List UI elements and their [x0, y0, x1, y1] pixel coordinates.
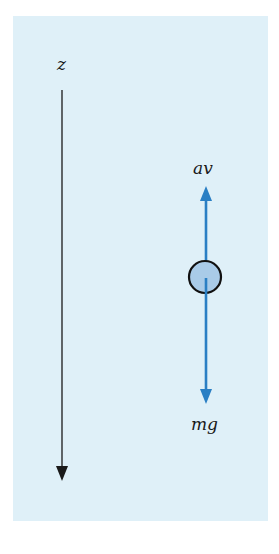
down-arrowhead-icon [200, 389, 212, 404]
up-arrowhead-icon [200, 186, 212, 201]
gravity-force-arrow [200, 278, 212, 404]
z-axis-label: z [56, 54, 67, 74]
gravity-force-label: mg [191, 414, 218, 434]
z-axis [56, 90, 68, 481]
axis-arrowhead-icon [56, 466, 68, 481]
drag-force-label: av [193, 158, 213, 178]
free-body-diagram: z av mg [0, 0, 279, 554]
drag-force-arrow [200, 186, 212, 262]
